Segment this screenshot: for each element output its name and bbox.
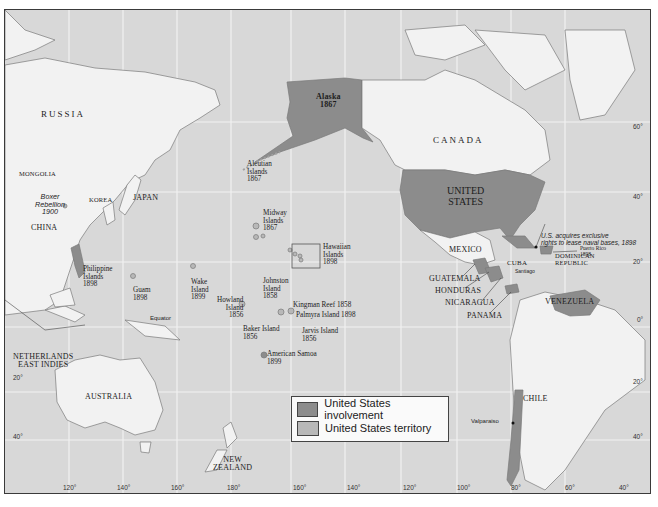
axis-tick: 80° [511, 484, 521, 491]
label-kingman: Kingman Reef 1858 [293, 302, 351, 310]
label-nicaragua: NICARAGUA [445, 299, 495, 307]
label-netherlands-east-indies: NETHERLANDSEAST INDIES [13, 353, 73, 370]
label-midway: MidwayIslands1867 [263, 210, 287, 233]
label-hawaii: HawaiianIslands1898 [323, 244, 351, 267]
label-chile: CHILE [523, 395, 548, 403]
axis-tick: 40° [633, 433, 643, 440]
label-korea: KOREA [89, 197, 112, 204]
axis-tick: 140° [347, 484, 360, 491]
label-panama: PANAMA [467, 312, 502, 320]
label-wake: WakeIsland1899 [191, 279, 209, 302]
swatch-territory-icon [297, 421, 319, 436]
label-howland: HowlandIsland1856 [217, 297, 243, 320]
map-legend: United States involvement United States … [291, 396, 449, 442]
label-philippines: PhilippineIslands1898 [83, 266, 113, 289]
label-united-states: UNITEDSTATES [447, 186, 484, 207]
axis-tick: 60° [633, 123, 643, 130]
label-canada: CANADA [433, 136, 484, 145]
label-japan: JAPAN [133, 194, 158, 202]
label-guam: Guam1898 [133, 287, 151, 302]
label-alaska: Alaska1867 [316, 93, 341, 110]
label-santiago: Santiago [515, 269, 535, 274]
axis-tick: 20° [13, 374, 23, 381]
legend-item-involvement: United States involvement [297, 400, 448, 418]
label-mexico: MEXICO [449, 246, 482, 254]
axis-tick: 20° [633, 258, 643, 265]
label-mongolia: MONGOLIA [19, 171, 56, 178]
label-baker: Baker Island1856 [243, 326, 280, 341]
axis-tick: 0° [637, 316, 643, 323]
axis-tick: 120° [63, 484, 76, 491]
label-china: CHINA [31, 224, 57, 232]
label-new-zealand: NEWZEALAND [213, 456, 252, 473]
axis-tick: 40° [633, 193, 643, 200]
label-aleutian: AleutianIslands1867 [247, 161, 272, 184]
legend-label: United States territory [325, 422, 431, 434]
axis-tick: 160° [293, 484, 306, 491]
axis-tick: 160° [171, 484, 184, 491]
axis-tick: 140° [117, 484, 130, 491]
axis-tick: 100° [457, 484, 470, 491]
axis-tick: 20° [633, 378, 643, 385]
axis-tick: 60° [565, 484, 575, 491]
legend-label: United States involvement [324, 397, 448, 421]
label-equator: Equator [150, 315, 171, 321]
axis-tick: 40° [13, 433, 23, 440]
label-honduras: HONDURAS [435, 287, 481, 295]
label-puerto-rico: Puerto Rico1898 [580, 246, 606, 258]
label-cuba: CUBA [507, 260, 527, 267]
label-johnston: JohnstonIsland1858 [263, 278, 289, 301]
axis-tick: 180° [227, 484, 240, 491]
label-boxer-rebellion: BoxerRebellion1900 [35, 193, 65, 216]
label-venezuela: VENEZUELA [545, 298, 594, 306]
label-guatemala: GUATEMALA [429, 275, 481, 283]
axis-tick: 40° [619, 484, 629, 491]
label-samoa: American Samoa1899 [267, 351, 317, 366]
label-australia: AUSTRALIA [85, 393, 132, 401]
label-russia: RUSSIA [41, 110, 85, 119]
swatch-involvement-icon [297, 402, 318, 417]
label-valparaiso: Valparaiso [471, 418, 499, 424]
label-palmyra: Palmyra Island 1898 [296, 312, 356, 320]
legend-item-territory: United States territory [297, 419, 448, 437]
axis-tick: 120° [403, 484, 416, 491]
label-jarvis: Jarvis Island1856 [302, 328, 338, 343]
map-frame: RUSSIA CANADA Alaska1867 AleutianIslands… [4, 9, 651, 494]
